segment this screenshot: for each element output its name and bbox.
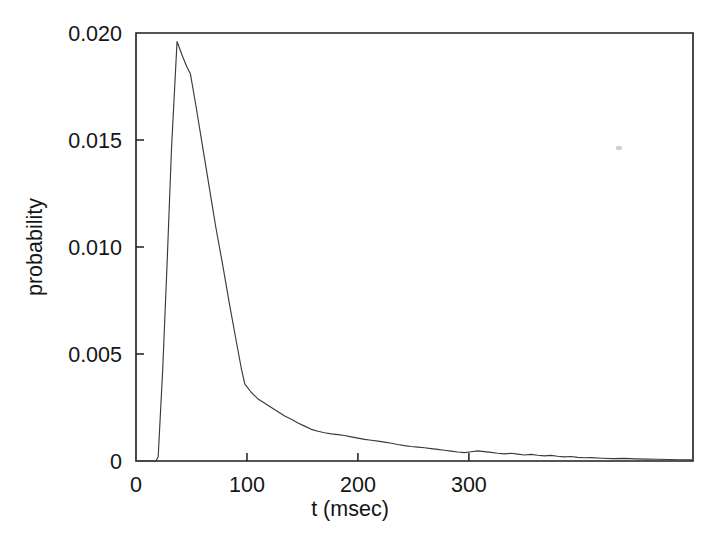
scan-artifact [616, 146, 622, 150]
x-tick-label: 100 [229, 473, 265, 497]
probability-distribution-chart: 00.0050.0100.0150.020 0100200300 probabi… [0, 0, 727, 548]
x-tick-label: 300 [451, 473, 487, 497]
x-tick-label: 0 [130, 473, 142, 497]
x-axis-title: t (msec) [311, 497, 389, 521]
y-tick-label: 0 [110, 450, 122, 474]
figure-container: 00.0050.0100.0150.020 0100200300 probabi… [0, 0, 727, 548]
y-tick-label: 0.005 [68, 343, 122, 367]
y-tick-label: 0.020 [68, 22, 122, 46]
y-tick-label: 0.015 [68, 129, 122, 153]
y-tick-label: 0.010 [68, 236, 122, 260]
x-tick-label: 200 [340, 473, 376, 497]
y-axis-title: probability [23, 198, 47, 296]
